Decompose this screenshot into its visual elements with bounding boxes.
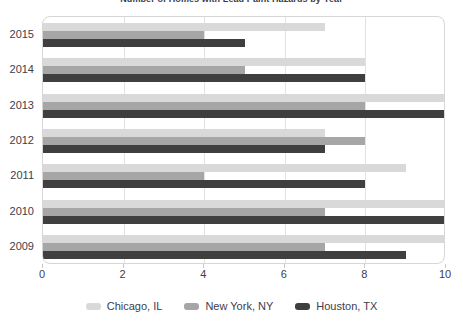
x-axis-label-8: 8	[361, 268, 367, 280]
bar-houston-2015	[43, 39, 245, 47]
bar-group-2011	[43, 159, 444, 194]
bar-group-2015	[43, 17, 444, 52]
bar-group-2013	[43, 88, 444, 123]
bar-newyork-2013	[43, 102, 365, 110]
x-axis-label-10: 10	[439, 268, 451, 280]
y-axis-label-2012: 2012	[10, 122, 34, 157]
chart-container: Number of Homes with Lead Paint Hazards …	[0, 0, 463, 327]
bar-chicago-2009	[43, 235, 445, 243]
y-axis-label-2010: 2010	[10, 193, 34, 228]
bar-newyork-2010	[43, 208, 325, 216]
bar-group-2014	[43, 52, 444, 87]
bar-chicago-2011	[43, 164, 406, 172]
x-axis-label-2: 2	[120, 268, 126, 280]
legend-label: New York, NY	[205, 300, 273, 312]
bar-chicago-2012	[43, 129, 325, 137]
bar-newyork-2011	[43, 172, 204, 180]
legend-item-chicago[interactable]: Chicago, IL	[86, 300, 163, 312]
bar-houston-2010	[43, 216, 445, 224]
bar-chicago-2014	[43, 58, 365, 66]
legend-swatch-icon-chicago	[86, 303, 101, 310]
bar-group-2012	[43, 123, 444, 158]
chart-legend: Chicago, ILNew York, NYHouston, TX	[0, 296, 463, 316]
legend-swatch-icon-houston	[295, 303, 310, 310]
y-axis-label-2015: 2015	[10, 16, 34, 51]
bar-newyork-2014	[43, 66, 245, 74]
bar-group-2009	[43, 230, 444, 264]
y-axis-labels: 2015201420132012201120102009	[0, 16, 38, 264]
legend-swatch-icon-newyork	[184, 303, 199, 310]
bar-chicago-2015	[43, 23, 325, 31]
bar-chicago-2013	[43, 94, 445, 102]
bar-newyork-2012	[43, 137, 365, 145]
plot-area	[42, 16, 445, 264]
y-axis-label-2011: 2011	[10, 158, 34, 193]
x-axis: 0246810	[42, 264, 445, 284]
bar-houston-2013	[43, 110, 445, 118]
x-axis-label-4: 4	[200, 268, 206, 280]
bar-chicago-2010	[43, 200, 445, 208]
legend-label: Houston, TX	[316, 300, 377, 312]
bar-houston-2014	[43, 74, 365, 82]
x-axis-label-0: 0	[39, 268, 45, 280]
legend-item-houston[interactable]: Houston, TX	[295, 300, 377, 312]
bar-newyork-2009	[43, 243, 325, 251]
bar-group-2010	[43, 194, 444, 229]
chart-title: Number of Homes with Lead Paint Hazards …	[0, 0, 463, 6]
legend-item-newyork[interactable]: New York, NY	[184, 300, 273, 312]
bar-houston-2012	[43, 145, 325, 153]
y-axis-label-2014: 2014	[10, 51, 34, 86]
y-axis-label-2013: 2013	[10, 87, 34, 122]
y-axis-label-2009: 2009	[10, 229, 34, 264]
x-axis-label-6: 6	[281, 268, 287, 280]
bar-houston-2009	[43, 251, 406, 259]
bar-houston-2011	[43, 180, 365, 188]
legend-label: Chicago, IL	[107, 300, 163, 312]
bar-newyork-2015	[43, 31, 204, 39]
